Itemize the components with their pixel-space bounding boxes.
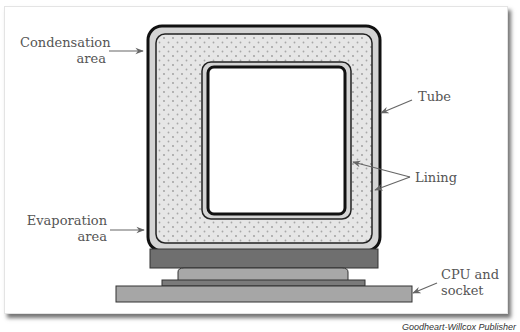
tube — [148, 26, 380, 251]
label-line: Evaporation — [20, 213, 107, 229]
label-evaporation-area: Evaporation area — [20, 213, 107, 245]
label-lining: Lining — [415, 170, 457, 186]
cpu-socket-assembly — [116, 249, 412, 302]
label-condensation-area: Condensation area — [20, 35, 106, 67]
label-line: Condensation — [20, 35, 106, 51]
arrow-tube — [381, 100, 412, 113]
label-cpu-socket: CPU and socket — [441, 267, 499, 299]
arrow-cpu — [413, 283, 437, 293]
label-tube: Tube — [418, 89, 451, 105]
publisher-credit: Goodheart-Willcox Publisher — [402, 322, 516, 332]
label-line: socket — [441, 283, 499, 299]
label-line: area — [20, 51, 106, 67]
label-line: CPU and — [441, 267, 499, 283]
label-line: area — [20, 229, 107, 245]
